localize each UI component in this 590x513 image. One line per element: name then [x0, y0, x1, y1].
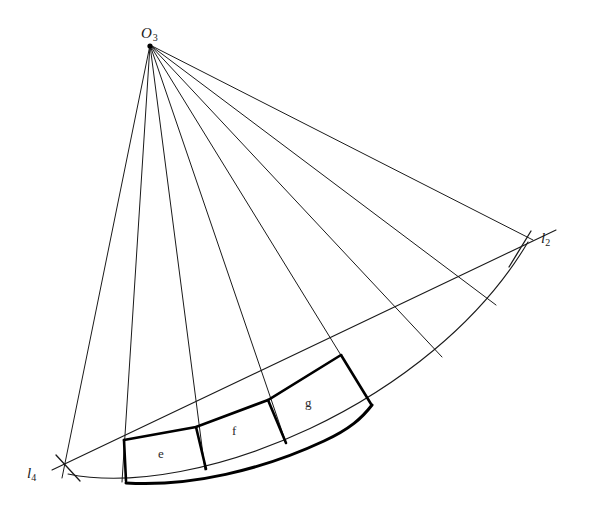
ray-pencil: [62, 45, 533, 482]
figure-canvas: O3 l2 l4 e f g: [0, 0, 590, 513]
label-cell-f: f: [232, 424, 236, 437]
ray-5: [150, 45, 371, 404]
divider-left: [124, 440, 126, 481]
ray-7: [150, 45, 496, 305]
chord-l4-l2: [52, 230, 556, 470]
apex-point-marker: [147, 43, 152, 48]
tick-l2: [509, 231, 531, 267]
ray-4: [150, 45, 286, 443]
label-line-l2: l2: [541, 231, 550, 246]
label-line-l4: l4: [27, 466, 36, 481]
label-apex-base: O: [141, 25, 152, 41]
label-cell-e: e: [158, 447, 164, 460]
ray-8: [150, 45, 533, 240]
divider-e-f: [196, 427, 206, 469]
label-l2-sub: 2: [545, 237, 550, 248]
ray-1: [62, 45, 150, 478]
label-cell-g: g: [305, 396, 312, 409]
ray-2: [122, 45, 150, 482]
label-apex-sub: 3: [153, 32, 158, 43]
ray-6: [150, 45, 442, 357]
divider-f-g: [268, 400, 286, 443]
label-l4-sub: 4: [31, 472, 36, 483]
ray-3: [150, 45, 205, 470]
geometry-diagram: [0, 0, 590, 513]
label-apex-O3: O3: [141, 26, 157, 41]
divider-right: [341, 355, 371, 404]
